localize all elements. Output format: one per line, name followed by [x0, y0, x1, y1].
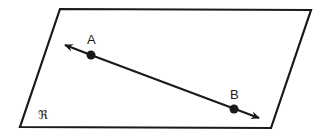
diagram-canvas: A B ℜ: [0, 0, 322, 136]
point-b: [230, 105, 239, 114]
plane-parallelogram: [20, 9, 311, 128]
point-b-label: B: [230, 87, 239, 102]
plane-diagram: A B ℜ: [0, 0, 322, 136]
point-a: [87, 51, 96, 60]
point-a-label: A: [87, 32, 96, 47]
plane-label: ℜ: [38, 108, 48, 122]
